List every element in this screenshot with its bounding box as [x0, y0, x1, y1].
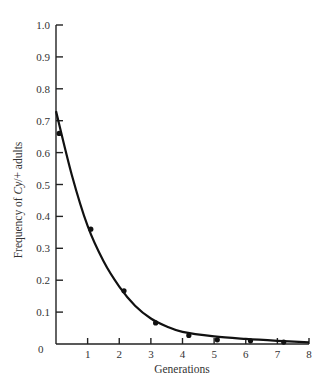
y-tick-label: 0.5 [36, 179, 50, 191]
x-axis-title: Generations [154, 363, 210, 375]
data-point [88, 227, 93, 232]
data-point [57, 131, 62, 136]
y-tick-label: 0.4 [36, 210, 50, 222]
y-tick-label: 1.0 [36, 19, 50, 31]
data-point [215, 337, 220, 342]
y-tick-label: 0.2 [36, 274, 50, 286]
data-point [186, 333, 191, 338]
y-tick-label: 0.9 [36, 51, 50, 63]
y-axis-title: Frequency of Cy/+ adults [12, 141, 25, 258]
y-tick-label: 0.1 [36, 306, 50, 318]
data-point [248, 338, 253, 343]
x-tick-label: 2 [117, 348, 123, 360]
y-axis-title-suffix: /+ adults [12, 141, 24, 182]
x-tick-label: 3 [148, 348, 154, 360]
data-point [121, 288, 126, 293]
x-tick-label: 7 [275, 348, 281, 360]
y-tick-label: 0.8 [36, 83, 50, 95]
data-point [153, 320, 158, 325]
origin-label: 0 [38, 343, 44, 355]
data-points [57, 131, 287, 345]
y-axis-title-prefix: Frequency of [12, 194, 25, 258]
data-point [281, 339, 286, 344]
x-tick-label: 4 [180, 348, 186, 360]
y-axis-ticks: 0.10.20.30.40.50.60.70.80.91.0 [36, 19, 63, 318]
x-tick-label: 1 [85, 348, 91, 360]
x-tick-label: 8 [306, 348, 312, 360]
y-axis-title-italic: Cy [12, 181, 25, 195]
x-tick-label: 5 [211, 348, 217, 360]
y-tick-label: 0.6 [36, 147, 50, 159]
frequency-chart: 0.10.20.30.40.50.60.70.80.91.0 12345678 … [0, 0, 327, 387]
x-tick-label: 6 [243, 348, 249, 360]
y-tick-label: 0.7 [36, 115, 50, 127]
y-tick-label: 0.3 [36, 242, 50, 254]
fitted-curve [56, 111, 309, 342]
